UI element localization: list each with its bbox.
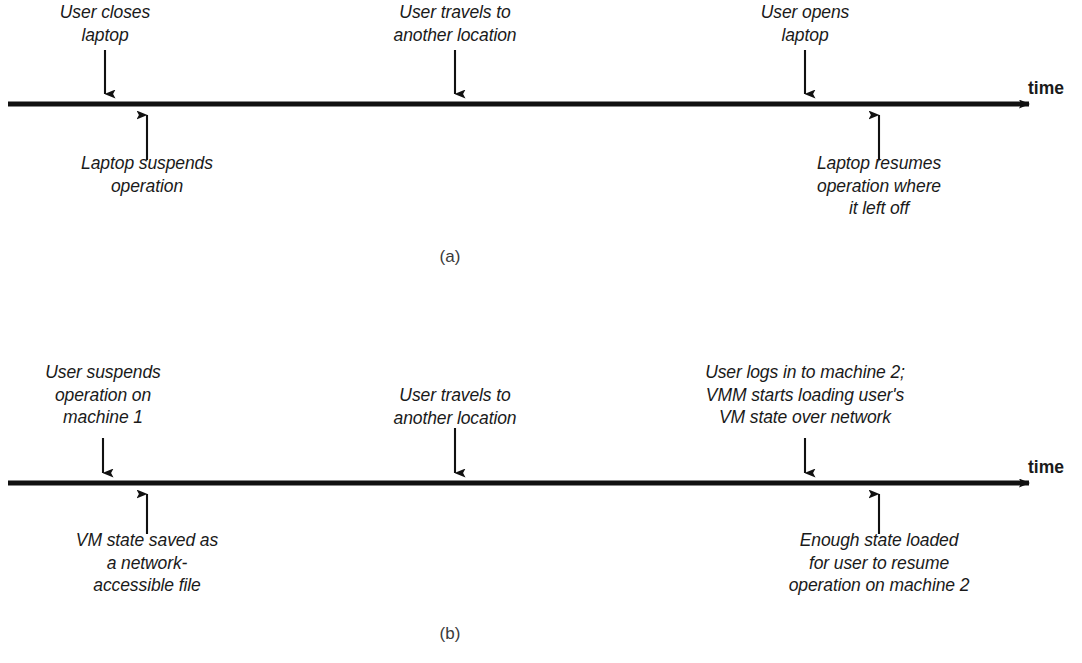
panel-a-label-user-opens-laptop: User opens laptop (705, 1, 905, 46)
panel-a-label-user-closes-laptop: User closes laptop (5, 1, 205, 46)
panel-b-caption: (b) (400, 624, 500, 644)
panel-a-label-laptop-suspends: Laptop suspends operation (47, 152, 247, 197)
panel-b-label-enough-state-loaded: Enough state loaded for user to resume o… (749, 529, 1009, 597)
panel-b-label-user-suspends: User suspends operation on machine 1 (3, 361, 203, 429)
panel-a-label-laptop-resumes: Laptop resumes operation where it left o… (779, 152, 979, 220)
panel-a-caption: (a) (400, 247, 500, 267)
figure-canvas: User closes laptop User travels to anoth… (0, 0, 1082, 663)
panel-b-label-vm-state-saved: VM state saved as a network- accessible … (47, 529, 247, 597)
panel-a-label-user-travels: User travels to another location (355, 1, 555, 46)
panel-b-label-user-logs-in: User logs in to machine 2; VMM starts lo… (665, 361, 945, 429)
panel-a-axis-title-time: time (1028, 78, 1064, 98)
panel-b-axis-title-time: time (1028, 457, 1064, 477)
panel-b-timeline (8, 428, 1029, 534)
panel-b-label-user-travels: User travels to another location (355, 384, 555, 429)
panel-a-timeline (8, 50, 1029, 160)
